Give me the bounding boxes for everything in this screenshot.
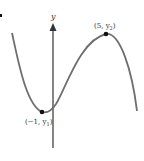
local-max-label: (5, y2) — [94, 22, 116, 31]
local-max-point — [104, 32, 109, 37]
y-axis-label: y — [50, 12, 56, 21]
local-min-point — [40, 110, 45, 115]
function-curve — [12, 33, 137, 113]
cropped-marker — [0, 14, 2, 17]
function-graph: y (−1, y1) (5, y2) — [0, 0, 144, 161]
y-axis-arrow-icon — [50, 23, 57, 31]
local-min-label: (−1, y1) — [25, 118, 53, 127]
